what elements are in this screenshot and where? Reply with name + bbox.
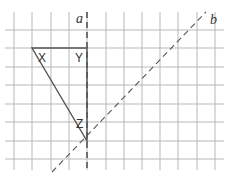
line-label-b: b	[210, 12, 217, 27]
vertex-label-x: X	[38, 51, 46, 65]
vertex-label-z: Z	[76, 117, 83, 131]
vertex-label-y: Y	[75, 51, 83, 65]
geometry-diagram: abXYZ	[0, 0, 234, 179]
line-b	[52, 12, 206, 172]
grid	[5, 12, 224, 170]
reflection-lines	[52, 12, 206, 172]
labels: abXYZ	[38, 11, 217, 131]
line-label-a: a	[76, 11, 83, 26]
